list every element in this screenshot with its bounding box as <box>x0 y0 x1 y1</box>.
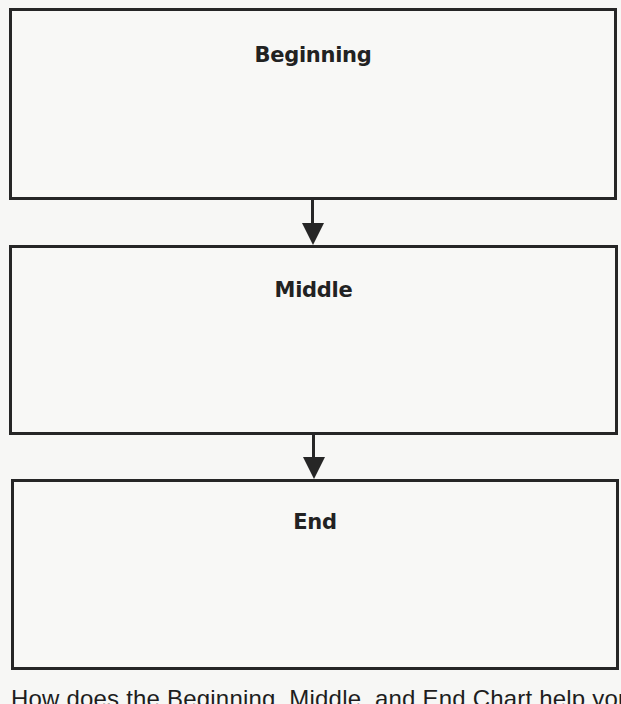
arrow-down-icon <box>299 434 329 480</box>
arrow-down-icon <box>298 199 328 246</box>
beginning-box: Beginning <box>9 8 617 200</box>
middle-box: Middle <box>9 245 618 435</box>
worksheet-page: Beginning Middle End How does the Beginn… <box>0 0 621 704</box>
question-text: How does the Beginning, Middle, and End … <box>11 685 621 704</box>
end-label: End <box>14 510 616 534</box>
end-box: End <box>11 479 619 670</box>
arrowhead-icon <box>302 223 324 245</box>
beginning-label: Beginning <box>12 43 614 67</box>
arrowhead-icon <box>303 457 325 479</box>
middle-label: Middle <box>12 278 615 302</box>
